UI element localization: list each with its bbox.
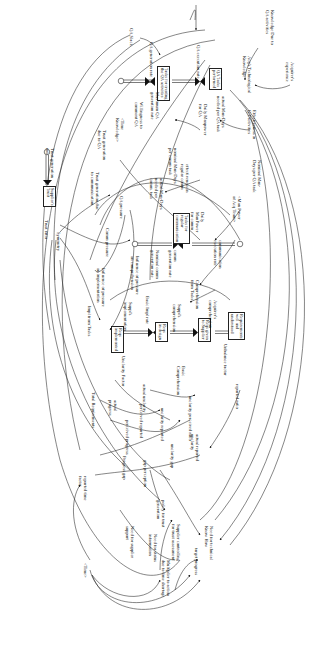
var-impl-from-tasks: Impl from Tasks <box>87 306 92 336</box>
var-qa-generation-rate: QA generation rate <box>149 42 154 77</box>
var-comm-generation-rate: comm generation rate <box>168 250 178 277</box>
var-nominal-comm-generation-rate: Nominal comm generation rate <box>150 250 160 279</box>
var-time: <Time> <box>83 563 88 578</box>
var-daily-manpower-qa: Daily Manpower for QA <box>198 104 208 135</box>
var-suppls-implementation: Suppl's implementation <box>123 302 133 331</box>
var-need-technical-knowhow: Need for technical Know How <box>204 526 214 560</box>
var-nominal-mandays-comm: nominal Man-Days per comm task <box>168 148 178 184</box>
stock-tasks-regular-communication: Tasks for regular communication <box>173 213 190 244</box>
var-actual-mandays-qa: actual Man-Days needed per QA task <box>216 96 226 132</box>
var-maximum-qa-generation-rate: Maximum QA generation rate <box>150 92 160 119</box>
var-influence-pressure-comprehension: Influence of pressure on comprehension <box>130 256 140 295</box>
var-effectiveness-regular-comm: effectiveness in regular comm <box>180 164 190 193</box>
var-supplier-controlling-trust: Supplier controlling for trust assessmen… <box>171 524 181 561</box>
var-need-supplier-support: Need for supplier support <box>125 526 135 558</box>
var-qa-pressure: QA pressure <box>119 196 124 219</box>
stock-requirements-understood: Requirements well and understood <box>228 312 245 340</box>
var-basic-impl-rate: Basic Impl rate <box>145 296 150 324</box>
var-policy-trust-generation: policy for trust generation <box>156 500 166 527</box>
var-unclarity-gap: unclarity gap <box>170 444 175 468</box>
var-perceived-progress: perceived progress <box>125 420 130 455</box>
causal-loop-diagram: QA Tasks performed Tasks for creating th… <box>0 0 319 647</box>
var-knowledge-due-qa: Knowledge Due to QA activities <box>265 10 275 45</box>
cloud-source-icon <box>132 241 138 247</box>
var-influence-pressure-implementation: Influence of pressure on implementation <box>96 268 106 307</box>
var-unclarity-factor: Unclarity Factor <box>121 356 126 386</box>
var-target-progress: target progress <box>194 548 199 575</box>
var-trust-generation-rate: Trust generation rate <box>45 148 55 178</box>
var-symmetry: Symmetry <box>56 232 61 251</box>
var-progress-gap: Progress gap <box>122 456 127 480</box>
var-unbalance-factor: Unbalance factor <box>223 344 228 376</box>
var-reported-time-factor: reported time factor <box>78 476 88 501</box>
stock-reqs-in-design: Reqs in design <box>155 322 168 342</box>
var-daily-manpower-comm: Daily ManPower for comm <box>190 212 205 232</box>
var-comprehension-from-tasks: Comprehension from Tasks <box>190 280 200 309</box>
var-comm-pressure: Comm pressure <box>105 228 110 257</box>
var-perceived-reported: perceived reported <box>139 404 144 438</box>
var-acq-tech-knowledge: Acq's Technological Knowledge <box>242 56 252 93</box>
var-nominal-mandays-qa: Nominal Man- Days per QA task <box>252 160 262 193</box>
var-acquirers-experience: Acquirer's experience <box>285 62 295 82</box>
var-suppls-comprehension: Suppl's comprehension <box>172 304 182 332</box>
var-actual-reported-unclarity: actual reported unclarity <box>190 434 200 461</box>
var-actual-progress: actual progress <box>108 400 118 416</box>
var-man-power-acq-team: <Man Power of Acq Team> <box>232 196 242 222</box>
stock-suppliers-trust: Supplier's Trust <box>43 186 56 207</box>
var-qa-slack: QA Slack <box>129 28 134 46</box>
var-willingness-comment-qa: Willingness to comment QA <box>134 102 144 128</box>
var-trust-generation-due-comm: Trust generation due to communication <box>90 172 100 210</box>
cloud-source-icon <box>118 78 124 84</box>
var-reported-ratio: reported ratio <box>235 384 240 409</box>
var-acquirers-comprehension: Acquirer's comprehension <box>208 300 218 328</box>
var-total-requirements: Total Requirements <box>91 392 96 428</box>
var-trust-ratio: Trust ratio <box>44 220 49 239</box>
var-trust-generation-due-qa: Trust generation due to QA <box>97 130 107 160</box>
stock-qa-tasks-performed: QA Tasks performed <box>209 68 222 90</box>
var-unclarity-reported: unclarity reported <box>160 408 165 441</box>
var-actual-mandays-comm: actual Man-Days needed per comm. task <box>149 178 164 210</box>
cloud-sink-icon <box>237 241 243 247</box>
var-effectiveness-qa: Effectiveness in QA activities <box>247 110 257 139</box>
var-multiplier-action-time: Multiplier to action due to time shortag… <box>161 560 171 597</box>
var-need-status-information: Need for status information <box>148 534 158 562</box>
var-qa-execution-rate: QA execution rate <box>196 45 201 78</box>
var-basic-comprehension: Basic Comprehension <box>176 366 186 395</box>
var-gap-perception: gap perception <box>143 460 148 487</box>
var-communication-execution-rate: communication execution rate <box>213 240 223 269</box>
var-time-knowledge: <Time Knowledge> <box>115 118 125 142</box>
